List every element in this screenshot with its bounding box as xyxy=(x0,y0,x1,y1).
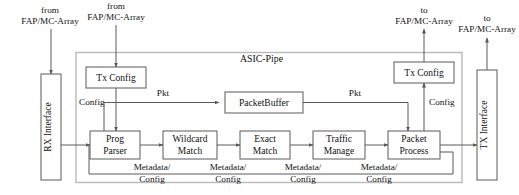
tx-config-sink-label-line2: FAP/MC-Array xyxy=(395,16,453,26)
tx-config-source-label-line1: from xyxy=(107,1,125,11)
stage-prog-parser-label-line2: Parser xyxy=(103,146,128,156)
rx-interface-label: RX Interface xyxy=(43,102,53,151)
metadata-label-1-line2: Config xyxy=(139,174,165,184)
stage-wildcard-match-label-line2: Match xyxy=(178,146,203,156)
stage-packet-process-label-line1: Packet xyxy=(401,134,427,144)
metadata-label-2-line2: Config xyxy=(215,174,241,184)
stage-exact-match-label-line2: Match xyxy=(253,146,278,156)
rx-source-label-line1: from xyxy=(41,5,59,15)
asic-pipe-diagram: ASIC-Pipe from FAP/MC-Array from FAP/MC-… xyxy=(0,0,519,195)
metadata-label-1-line1: Metadata/ xyxy=(134,162,171,172)
rx-source-label-line2: FAP/MC-Array xyxy=(21,16,79,26)
pkt-out-label: Pkt xyxy=(349,88,362,98)
config-right-label: Config xyxy=(429,97,455,107)
tx-interface-label: TX Interface xyxy=(479,101,489,150)
tx-config-sink-label-line1: to xyxy=(420,5,428,15)
config-left-label: Config xyxy=(79,97,105,107)
metadata-label-4-line2: Config xyxy=(366,174,392,184)
diagram-canvas: ASIC-Pipe from FAP/MC-Array from FAP/MC-… xyxy=(0,0,519,195)
stage-traffic-manage-label-line2: Manage xyxy=(324,146,355,156)
packet-buffer-label: PacketBuffer xyxy=(239,98,290,108)
asic-pipe-region-label: ASIC-Pipe xyxy=(240,53,284,64)
metadata-label-3-line2: Config xyxy=(290,174,316,184)
metadata-label-2-line1: Metadata/ xyxy=(210,162,247,172)
stage-exact-match-label-line1: Exact xyxy=(254,134,276,144)
tx-config-right-label: Tx Config xyxy=(404,68,444,78)
stage-traffic-manage-label-line1: Traffic xyxy=(326,134,352,144)
metadata-label-4-line1: Metadata/ xyxy=(361,162,398,172)
wire-buffer-to-packet-process xyxy=(303,103,408,132)
tx-interface-sink-label-line2: FAP/MC-Array xyxy=(458,24,516,34)
tx-config-source-label-line2: FAP/MC-Array xyxy=(87,12,145,22)
stage-prog-parser-label-line1: Prog xyxy=(106,134,124,144)
tx-interface-sink-label-line1: to xyxy=(483,13,491,23)
metadata-label-3-line1: Metadata/ xyxy=(285,162,322,172)
pkt-in-label: Pkt xyxy=(157,88,170,98)
stage-packet-process-label-line2: Process xyxy=(399,146,428,156)
tx-config-left-label: Tx Config xyxy=(96,73,136,83)
stage-wildcard-match-label-line1: Wildcard xyxy=(173,134,208,144)
